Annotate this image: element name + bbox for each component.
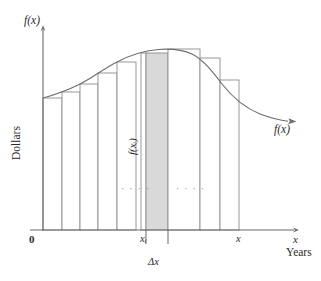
x-axis-name: Years bbox=[286, 246, 312, 258]
riemann-bar-highlighted bbox=[146, 53, 168, 230]
rect-height-label: f(xᵢ) bbox=[126, 138, 139, 155]
y-axis-label: f(x) bbox=[24, 14, 40, 27]
delta-x-label: Δx bbox=[147, 256, 159, 267]
tick-label-xi: xᵢ bbox=[139, 233, 147, 244]
riemann-bar-6 bbox=[141, 53, 146, 230]
y-axis-name: Dollars bbox=[10, 126, 22, 160]
riemann-bar-1 bbox=[43, 98, 62, 230]
curve-label: f(x) bbox=[274, 123, 290, 136]
riemann-rectangles bbox=[43, 49, 239, 230]
riemann-bar-2 bbox=[62, 92, 80, 230]
origin-label: 0 bbox=[29, 233, 35, 245]
x-axis-label: x bbox=[292, 233, 298, 245]
riemann-bar-9 bbox=[200, 58, 220, 230]
riemann-sum-figure: f(x) Dollars 0 x Years f(x) f(xᵢ) xᵢ x Δ… bbox=[0, 0, 321, 281]
riemann-bar-8 bbox=[168, 49, 200, 230]
ellipsis-left: · · · · bbox=[121, 183, 150, 194]
riemann-bar-10 bbox=[220, 80, 239, 230]
tick-label-x: x bbox=[235, 233, 241, 244]
axis-ticks bbox=[146, 230, 168, 244]
riemann-bar-4 bbox=[98, 73, 117, 230]
figure-canvas: f(x) Dollars 0 x Years f(x) f(xᵢ) xᵢ x Δ… bbox=[0, 0, 321, 281]
riemann-bar-3 bbox=[80, 84, 98, 230]
ellipsis-right: · · · · bbox=[176, 183, 205, 194]
